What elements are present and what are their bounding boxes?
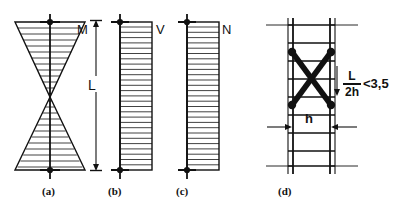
pier-rungs — [288, 25, 335, 166]
shear-hatch — [120, 27, 152, 165]
axial-symbol-label: N — [222, 22, 231, 37]
panel-a-top-node — [40, 19, 60, 25]
shear-symbol-label: V — [156, 22, 165, 37]
structural-diagram-figure: M V N L h L 2h <3,5 (a) (b) (c) (d) — [0, 0, 405, 213]
panel-caption-d: (d) — [278, 185, 291, 197]
panel-b-top-node — [111, 19, 129, 25]
slenderness-ratio-annotation: L 2h <3,5 — [343, 70, 389, 98]
panel-b-shear-diagram — [111, 14, 152, 179]
panel-a-moment-diagram — [15, 14, 85, 179]
panel-c-bottom-node — [178, 167, 196, 173]
axial-hatch — [187, 27, 219, 165]
length-dimension-label: L — [88, 77, 96, 93]
ratio-relation: <3,5 — [363, 76, 389, 91]
panel-caption-c: (c) — [176, 185, 188, 197]
ratio-fraction: L 2h — [343, 70, 361, 98]
diagram-canvas — [0, 0, 405, 213]
moment-symbol-label: M — [77, 22, 88, 37]
panel-c-top-node — [178, 19, 196, 25]
panel-b-bottom-node — [111, 167, 129, 173]
panel-c-axial-diagram — [178, 14, 219, 179]
height-dimension-label: h — [305, 111, 313, 126]
ratio-numerator: L — [346, 70, 357, 83]
length-dimension — [90, 20, 102, 171]
ratio-denominator: 2h — [343, 85, 361, 98]
panel-a-bottom-node — [40, 167, 60, 173]
panel-caption-a: (a) — [42, 185, 55, 197]
panel-caption-b: (b) — [108, 185, 121, 197]
